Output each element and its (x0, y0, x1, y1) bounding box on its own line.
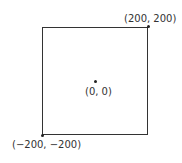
bottom-left-label: (−200, −200) (12, 139, 81, 150)
top-right-point (147, 25, 150, 28)
bottom-left-point (41, 134, 44, 137)
center-point (94, 80, 97, 83)
center-label: (0, 0) (85, 86, 112, 97)
top-right-label: (200, 200) (124, 13, 176, 24)
